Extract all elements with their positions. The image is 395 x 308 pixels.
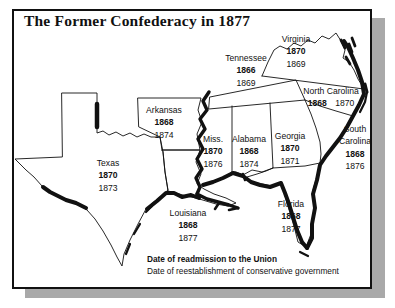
conservative-year: 1877	[278, 223, 304, 235]
conservative-year: 1873	[97, 182, 119, 194]
conservative-year: 1874	[232, 158, 266, 170]
state-label-georgia: Georgia 1870 1871	[275, 130, 306, 167]
readmission-year: 1870	[282, 45, 311, 57]
readmission-year: 1868	[308, 98, 327, 108]
state-label-florida: Florida 1868 1877	[278, 198, 304, 235]
conservative-year: 1874	[146, 129, 182, 141]
conservative-year: 1876	[203, 158, 223, 170]
map-title: The Former Confederacy in 1877	[24, 12, 250, 30]
state-name: Georgia	[275, 130, 306, 142]
river-delta-branch	[229, 208, 238, 210]
readmission-year: 1870	[97, 169, 119, 181]
conservative-year: 1871	[275, 155, 306, 167]
state-name: Miss.	[203, 133, 223, 145]
conservative-year: 1869	[225, 77, 267, 89]
readmission-year: 1868	[278, 210, 304, 222]
state-name: Texas	[97, 157, 119, 169]
readmission-year: 1866	[225, 64, 267, 76]
state-name: Florida	[278, 198, 304, 210]
state-label-virginia: Virginia 1870 1869	[282, 33, 311, 70]
state-name: Virginia	[282, 33, 311, 45]
state-label-south-carolina: South Carolina 1868 1876	[333, 123, 377, 173]
state-label-north-carolina: North Carolina 1868 1870	[303, 85, 358, 110]
texas-barrier-islands	[126, 206, 152, 254]
texas-outline	[15, 93, 168, 266]
state-label-alabama: Alabama 1868 1874	[232, 133, 266, 170]
state-name: Tennessee	[225, 52, 267, 64]
state-label-texas: Texas 1870 1873	[97, 157, 119, 194]
conservative-year: 1870	[335, 98, 354, 108]
conservative-year: 1876	[333, 160, 377, 172]
legend-readmission-label: Date of readmission to the Union	[147, 254, 339, 266]
readmission-year: 1870	[203, 145, 223, 157]
state-name: South Carolina	[333, 123, 377, 148]
readmission-year: 1868	[333, 148, 377, 160]
legend: Date of readmission to the Union Date of…	[147, 254, 339, 277]
state-name: Louisiana	[170, 207, 207, 219]
state-name: North Carolina	[303, 85, 358, 97]
conservative-year: 1869	[282, 58, 311, 70]
cape-hatteras-blob	[365, 84, 367, 92]
readmission-year: 1868	[170, 219, 207, 231]
state-label-louisiana: Louisiana 1868 1877	[170, 207, 207, 244]
state-name: Alabama	[232, 133, 266, 145]
readmission-year: 1868	[232, 145, 266, 157]
state-name: Arkansas	[146, 104, 182, 116]
state-label-arkansas: Arkansas 1868 1874	[146, 104, 182, 141]
readmission-year: 1870	[275, 142, 306, 154]
state-label-tennessee: Tennessee 1866 1869	[225, 52, 267, 89]
legend-conservative-label: Date of reestablishment of conservative …	[147, 266, 339, 278]
state-label-mississippi: Miss. 1870 1876	[203, 133, 223, 170]
rio-grande-big-bend	[43, 187, 86, 208]
readmission-year: 1868	[146, 116, 182, 128]
figure-canvas: The Former Confederacy in 1877 Virginia …	[0, 0, 395, 308]
conservative-year: 1877	[170, 232, 207, 244]
